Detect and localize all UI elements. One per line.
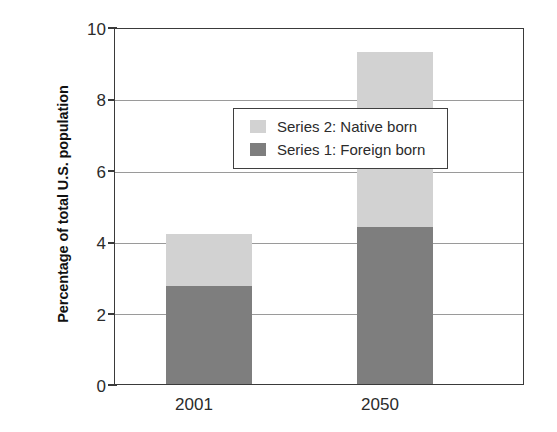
bar-segment-2050-foreign-born[interactable]	[357, 227, 433, 384]
y-tick-label-8: 8	[66, 92, 106, 109]
legend-label-foreign-born: Series 1: Foreign born	[277, 142, 425, 157]
x-tick-label-2001: 2001	[135, 396, 253, 413]
plot-area: Series 2: Native born Series 1: Foreign …	[114, 28, 524, 385]
gridline-6	[115, 172, 523, 173]
legend-swatch-foreign-born-icon	[250, 143, 266, 156]
bar-segment-2001-native-born[interactable]	[166, 234, 252, 286]
legend-item-foreign-born[interactable]: Series 1: Foreign born	[250, 138, 447, 161]
y-tick-label-2: 2	[66, 307, 106, 324]
x-tick-label-2050: 2050	[326, 396, 434, 413]
y-tick-label-10: 10	[66, 21, 106, 38]
legend-label-native-born: Series 2: Native born	[277, 119, 417, 134]
stacked-bar-chart: Percentage of total U.S. population 10 8…	[0, 0, 557, 432]
legend-item-native-born[interactable]: Series 2: Native born	[250, 115, 447, 138]
y-tick-label-6: 6	[66, 164, 106, 181]
chart-legend: Series 2: Native born Series 1: Foreign …	[233, 108, 448, 169]
y-tick-label-4: 4	[66, 235, 106, 252]
gridline-8	[115, 100, 523, 101]
bar-segment-2001-foreign-born[interactable]	[166, 286, 252, 384]
y-tick-label-0: 0	[66, 378, 106, 395]
legend-swatch-native-born-icon	[250, 120, 266, 133]
y-axis-tick-labels: 10 8 6 4 2 0	[58, 0, 106, 432]
